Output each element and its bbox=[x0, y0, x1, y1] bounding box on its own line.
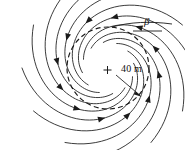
streamline bbox=[32, 25, 132, 111]
flow-arrow-icon bbox=[97, 115, 106, 122]
streamline bbox=[45, 0, 125, 104]
radius-label: 40 m bbox=[121, 64, 142, 74]
center-plus-icon bbox=[104, 66, 112, 74]
vortex-streamline-figure: 40 m β bbox=[0, 0, 185, 150]
streamline bbox=[65, 0, 151, 92]
flow-arrow-icon bbox=[54, 57, 61, 66]
flow-arrow-icon bbox=[155, 70, 162, 79]
flow-arrow-icon bbox=[110, 14, 119, 21]
flow-arrow-icon bbox=[63, 33, 71, 42]
streamline bbox=[56, 0, 113, 98]
beta-angle-label: β bbox=[144, 16, 149, 27]
flow-arrow-icon bbox=[73, 105, 82, 113]
flow-arrow-icon bbox=[134, 23, 143, 31]
flow-arrow-icon bbox=[145, 94, 153, 103]
figure-canvas bbox=[0, 0, 185, 150]
